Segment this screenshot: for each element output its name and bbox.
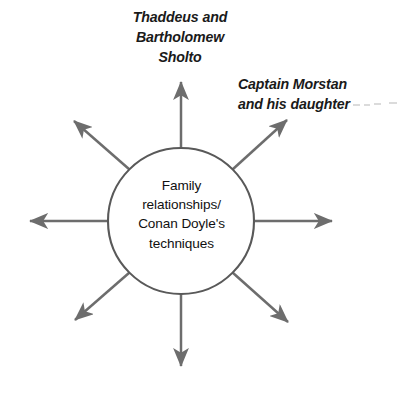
label-captain-morstan: Captain Morstan and his daughter: [238, 74, 410, 114]
label-thaddeus-bartholomew-sholto: Thaddeus and Bartholomew Sholto: [95, 7, 265, 67]
spoke-arrow-south-west: [75, 273, 130, 321]
diagram-canvas: Thaddeus and Bartholomew Sholto Captain …: [0, 0, 410, 394]
center-topic-text: Family relationships/ Conan Doyle's tech…: [110, 176, 253, 253]
spoke-arrow-north-west: [74, 121, 130, 170]
spoke-arrow-south-east: [233, 273, 289, 323]
spoke-arrow-north-east: [233, 120, 288, 170]
